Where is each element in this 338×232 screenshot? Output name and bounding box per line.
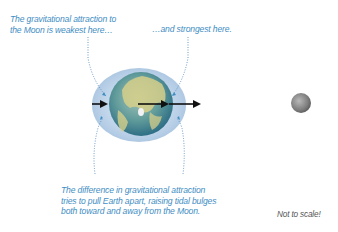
not-to-scale-note: Not to scale! [277, 210, 321, 221]
weakest-attraction-label: The gravitational attraction to the Moon… [10, 14, 116, 35]
moon-icon [291, 93, 311, 113]
tidal-bulge-explanation-label: The difference in gravitational attracti… [61, 185, 216, 217]
strongest-attraction-label: …and strongest here. [152, 24, 232, 35]
